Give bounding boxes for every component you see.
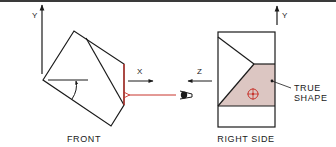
true-shape-fill bbox=[218, 64, 275, 106]
annotation-shape: SHAPE bbox=[294, 93, 328, 103]
front-view: Y bbox=[32, 5, 124, 126]
front-y-axis-label: Y bbox=[32, 11, 38, 20]
eye-icon bbox=[180, 91, 192, 99]
side-y-axis-label: Y bbox=[282, 11, 288, 20]
side-edge-upper bbox=[218, 37, 254, 64]
orthographic-drawing: Y X Z Y TRUE SHAPE bbox=[0, 0, 336, 147]
annotation-true: TRUE bbox=[294, 83, 321, 93]
z-axis-label: Z bbox=[197, 67, 202, 76]
front-outline bbox=[43, 31, 124, 126]
angle-arc bbox=[72, 81, 77, 99]
right-side-view-label: RIGHT SIDE bbox=[217, 134, 274, 144]
x-axis-label: X bbox=[137, 67, 143, 76]
front-inclined-edge bbox=[86, 38, 124, 105]
front-view-label: FRONT bbox=[67, 134, 101, 144]
right-side-view: Y bbox=[218, 6, 288, 127]
